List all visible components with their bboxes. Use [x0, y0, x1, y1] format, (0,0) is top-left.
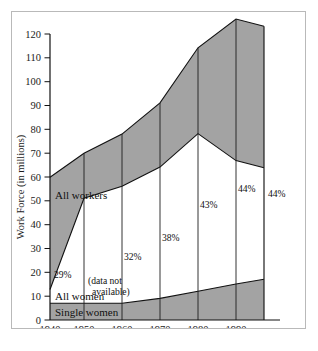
- figure-frame: 0 10 20 30 40 50 60 70 80 90 100 110 120…: [11, 11, 306, 329]
- y-tick-label-10: 10: [31, 291, 42, 302]
- band-label-all-workers: All workers: [55, 189, 107, 201]
- y-tick-label-80: 80: [31, 124, 42, 135]
- pct-label-1980: 43%: [200, 199, 218, 210]
- x-tick-label-1950: 1950: [74, 324, 95, 328]
- pct-label-1960: 32%: [124, 251, 142, 262]
- pct-label-1996: 44%: [268, 188, 286, 199]
- y-tick-label-40: 40: [31, 219, 42, 230]
- x-tick-label-1940: 1940: [40, 324, 61, 328]
- y-tick-label-120: 120: [25, 29, 41, 40]
- workforce-area-chart: 0 10 20 30 40 50 60 70 80 90 100 110 120…: [12, 12, 305, 328]
- y-tick-label-60: 60: [31, 172, 42, 183]
- note-line-2: available): [92, 286, 130, 298]
- pct-label-1940: 29%: [54, 269, 72, 280]
- data-not-available-note: (data not available): [88, 275, 130, 298]
- pct-label-1970: 38%: [162, 232, 180, 243]
- y-tick-label-50: 50: [31, 195, 42, 206]
- y-tick-label-100: 100: [25, 76, 41, 87]
- y-tick-label-90: 90: [31, 100, 42, 111]
- y-ticks: [45, 34, 51, 320]
- y-axis-title: Work Force (in millions): [15, 134, 27, 239]
- y-tick-label-30: 30: [31, 243, 42, 254]
- y-tick-label-20: 20: [31, 267, 42, 278]
- x-tick-label-1980: 1980: [188, 324, 209, 328]
- x-tick-label-1960: 1960: [112, 324, 133, 328]
- y-tick-label-110: 110: [26, 52, 41, 63]
- x-axis: 1940 1950 1960 1970 1980 1990 1996: [40, 320, 281, 328]
- x-tick-label-1970: 1970: [150, 324, 171, 328]
- y-tick-label-70: 70: [31, 148, 42, 159]
- pct-label-1990: 44%: [238, 183, 256, 194]
- band-label-single-women: Single women: [55, 306, 119, 318]
- x-tick-label-1990: 1990: [226, 324, 247, 328]
- y-axis: 0 10 20 30 40 50 60 70 80 90 100 110 120…: [15, 29, 50, 326]
